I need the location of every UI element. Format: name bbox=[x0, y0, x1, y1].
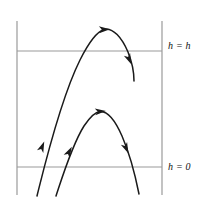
tall-trajectory-descending-arrow-icon bbox=[124, 53, 135, 66]
short-trajectory-apex-arrow-icon bbox=[95, 108, 106, 116]
tall-trajectory-ascending-arrow-icon bbox=[37, 140, 47, 153]
tall-trajectory-path bbox=[37, 29, 134, 196]
trajectory-diagram: h = h h = 0 bbox=[0, 0, 199, 209]
short-trajectory-descending-arrow-icon bbox=[121, 142, 132, 155]
lower-reference-line-label: h = 0 bbox=[168, 161, 191, 172]
tall-trajectory-apex-arrow-icon bbox=[99, 26, 110, 33]
short-trajectory-curve bbox=[56, 108, 139, 196]
diagram-canvas bbox=[0, 0, 199, 209]
upper-reference-line-label: h = h bbox=[168, 40, 191, 51]
reference-lines bbox=[17, 21, 162, 195]
